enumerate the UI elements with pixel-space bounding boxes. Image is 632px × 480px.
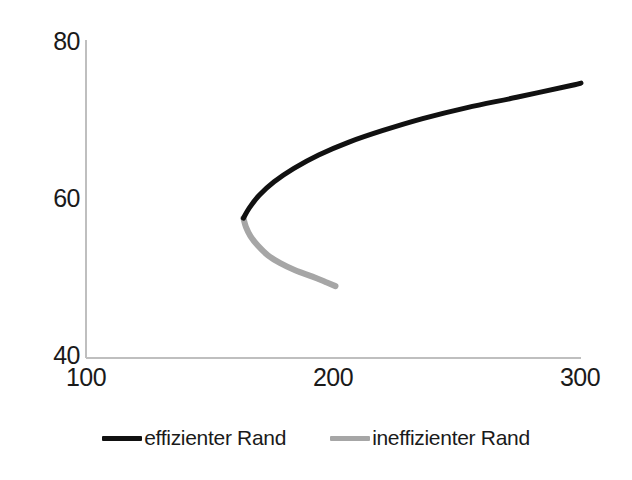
series-line-effizienter-rand (243, 83, 581, 218)
plot-area: 80 60 40 100 200 300 (0, 0, 632, 400)
chart-container: 80 60 40 100 200 300 effizienter Rand in… (0, 0, 632, 480)
chart-canvas (0, 0, 632, 400)
x-axis-tick-label-100: 100 (46, 365, 126, 390)
chart-legend: effizienter Rand ineffizienter Rand (0, 418, 632, 458)
y-axis-tick-label-60: 60 (20, 186, 80, 211)
series-line-ineffizienter-rand (243, 218, 335, 286)
legend-label-effizienter-rand: effizienter Rand (144, 426, 286, 450)
legend-item-effizienter-rand[interactable]: effizienter Rand (102, 426, 286, 450)
legend-line-swatch-black (102, 436, 142, 441)
y-axis-tick-label-80: 80 (20, 29, 80, 54)
legend-line-swatch-gray (330, 436, 370, 441)
legend-item-ineffizienter-rand[interactable]: ineffizienter Rand (330, 426, 530, 450)
legend-label-ineffizienter-rand: ineffizienter Rand (372, 426, 530, 450)
x-axis-tick-label-200: 200 (293, 365, 373, 390)
x-axis-tick-label-300: 300 (540, 365, 620, 390)
